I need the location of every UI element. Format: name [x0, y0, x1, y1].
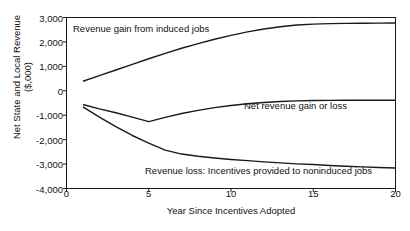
annotation-revenue-loss: Revenue loss: Incentives provided to non… [145, 165, 372, 176]
data-lines [83, 23, 396, 168]
chart-figure: Net State and Local Revenue ($,000) 3,00… [0, 0, 410, 231]
annotation-net-revenue: Net revenue gain or loss [244, 100, 347, 111]
annotation-revenue-gain: Revenue gain from induced jobs [73, 23, 209, 34]
series-line [83, 100, 396, 121]
plot-area [0, 0, 410, 231]
x-axis-label: Year Since Incentives Adopted [66, 205, 396, 216]
